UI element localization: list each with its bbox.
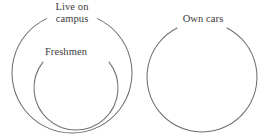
circle-live-on-campus bbox=[12, 19, 132, 133]
set-label-freshmen: Freshmen bbox=[40, 46, 92, 58]
set-label-live-on-campus-line-1: Live on bbox=[43, 1, 101, 13]
set-label-live-on-campus: Live on campus bbox=[43, 1, 101, 24]
set-label-live-on-campus-line-2: campus bbox=[43, 13, 101, 25]
circle-own-cars bbox=[147, 28, 257, 132]
set-label-own-cars-line-1: Own cars bbox=[177, 13, 229, 25]
circle-freshmen bbox=[34, 62, 118, 130]
venn-diagram-canvas: Live on campus Freshmen Own cars bbox=[0, 0, 267, 139]
set-label-freshmen-line-1: Freshmen bbox=[40, 46, 92, 58]
set-label-own-cars: Own cars bbox=[177, 13, 229, 25]
